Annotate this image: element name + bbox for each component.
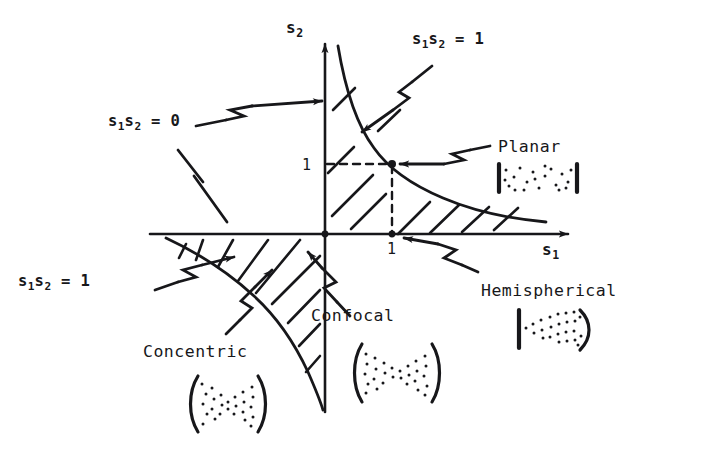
confocal-mirror-left [355, 344, 363, 402]
leader-zigzag [226, 106, 252, 120]
leader-s1s2-eq-0-secondary [178, 150, 227, 222]
leader-zigzag [178, 265, 202, 282]
annotation-s1s2-eq-1-lower: s1s2 = 1 [18, 272, 90, 293]
hatch-mark [351, 194, 386, 229]
concentric-beam-dots [201, 383, 255, 428]
annotation-s1s2-eq-1-upper: s1s2 = 1 [412, 30, 484, 51]
concentric-mirror-right [258, 376, 266, 432]
cavity-symbol-planar [499, 164, 577, 192]
hatch-mark [332, 175, 373, 216]
leader-zigzag [438, 244, 462, 265]
confocal-beam-dots [364, 353, 429, 397]
leader-zigzag [393, 82, 412, 110]
y-axis-tick-label: 1 [302, 156, 312, 174]
annotation-s1s2-eq-0: s1s2 = 0 [108, 112, 180, 133]
leader-s1s2-eq-0 [196, 101, 322, 126]
cavity-symbol-hemispherical [519, 310, 589, 350]
leader-zigzag [444, 150, 470, 164]
planar-beam-dots [504, 165, 573, 192]
confocal-mirror-right [432, 344, 440, 402]
x-axis-tick-label: 1 [387, 240, 397, 258]
hemispherical-mirror-curved [580, 310, 589, 350]
callout-label-confocal: Confocal [311, 306, 394, 325]
hatch-mark [430, 205, 459, 233]
leader-planar [400, 146, 490, 164]
cavity-symbol-concentric [191, 376, 266, 432]
leader-s1s2-eq-1-upper [362, 66, 432, 132]
leader-arrow [404, 238, 438, 244]
leader-segment [194, 176, 227, 222]
x-axis-label: s1 [542, 240, 559, 262]
hemispherical-beam-dots [525, 311, 583, 347]
leader-segment [178, 150, 203, 182]
callout-label-concentric: Concentric [143, 342, 247, 361]
leader-segment [412, 66, 432, 82]
diagram-canvas [0, 0, 707, 452]
origin-dot [322, 231, 329, 238]
hatch-mark [299, 324, 320, 346]
leader-segment [196, 120, 226, 126]
hatch-mark [306, 356, 320, 372]
hatch-mark [238, 240, 268, 281]
callout-label-planar: Planar [498, 137, 561, 156]
cavity-symbol-confocal [355, 344, 440, 402]
concentric-mirror-left [191, 376, 199, 432]
leader-segment [226, 320, 240, 334]
hyperbola-branch-upper-right [338, 46, 546, 222]
hatch-mark [398, 202, 430, 234]
leader-segment [470, 146, 490, 150]
y-axis-label: s2 [286, 18, 303, 40]
callout-label-hemispherical: Hemispherical [481, 281, 617, 300]
leader-segment [155, 282, 178, 290]
axis-points [322, 160, 396, 237]
leader-arrow [252, 101, 322, 106]
leader-hemispherical [404, 238, 478, 272]
stability-diagram: s2 s1 1 1 s1s2 = 0 s1s2 = 1 s1s2 = 1 Pla… [0, 0, 707, 452]
leader-segment [462, 265, 478, 272]
hatch-mark [328, 147, 354, 173]
hatch-mark [218, 240, 233, 267]
hyperbola-branch-lower-left [166, 238, 323, 410]
